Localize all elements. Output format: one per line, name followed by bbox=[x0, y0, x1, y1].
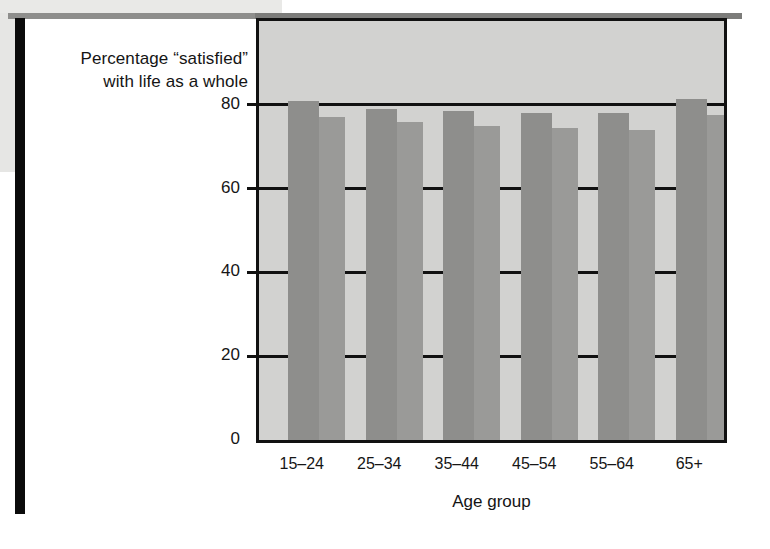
bar bbox=[521, 113, 552, 440]
bar-group bbox=[259, 21, 337, 440]
page-margin-shade-left bbox=[0, 0, 16, 172]
chart-title-line-1: Percentage “satisfied” bbox=[30, 47, 248, 70]
x-tick-label-65+: 65+ bbox=[649, 455, 729, 473]
bar-group bbox=[569, 21, 647, 440]
bars-layer bbox=[259, 21, 724, 440]
y-tick-label-0: 0 bbox=[198, 429, 240, 449]
figure-page: Percentage “satisfied” with life as a wh… bbox=[0, 0, 770, 549]
bar-group bbox=[492, 21, 570, 440]
page-margin-shade-top bbox=[0, 0, 282, 13]
bar bbox=[598, 113, 629, 440]
y-tick-mark-60 bbox=[247, 187, 256, 190]
x-tick-label-55–64: 55–64 bbox=[572, 455, 652, 473]
y-tick-label-80: 80 bbox=[198, 94, 240, 114]
bar bbox=[443, 111, 474, 440]
x-tick-label-35–44: 35–44 bbox=[417, 455, 497, 473]
plot-inner bbox=[259, 21, 724, 440]
bar-group bbox=[647, 21, 725, 440]
chart-title-line-2: with life as a whole bbox=[30, 70, 248, 93]
y-tick-mark-80 bbox=[247, 103, 256, 106]
y-tick-mark-40 bbox=[247, 271, 256, 274]
bar bbox=[707, 115, 725, 440]
bar-group bbox=[337, 21, 415, 440]
x-tick-label-15–24: 15–24 bbox=[262, 455, 342, 473]
bar bbox=[366, 109, 397, 440]
y-tick-label-60: 60 bbox=[198, 178, 240, 198]
bar-group bbox=[414, 21, 492, 440]
y-tick-label-40: 40 bbox=[198, 261, 240, 281]
x-tick-label-25–34: 25–34 bbox=[339, 455, 419, 473]
x-axis-title: Age group bbox=[256, 492, 727, 512]
y-tick-mark-20 bbox=[247, 355, 256, 358]
bar bbox=[288, 101, 319, 440]
plot-area bbox=[256, 18, 727, 443]
y-tick-label-20: 20 bbox=[198, 345, 240, 365]
x-tick-label-45–54: 45–54 bbox=[494, 455, 574, 473]
chart-axis-title-y: Percentage “satisfied” with life as a wh… bbox=[30, 47, 248, 93]
bar bbox=[676, 99, 707, 440]
left-vertical-rule bbox=[15, 18, 25, 514]
